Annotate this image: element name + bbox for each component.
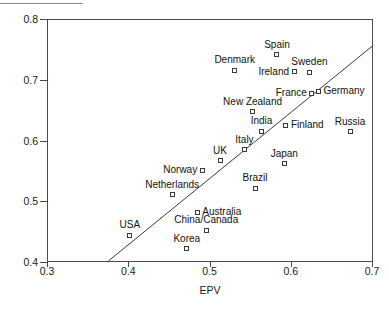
data-point-label: Korea (173, 234, 200, 244)
data-point-marker (259, 129, 264, 134)
data-point-marker (253, 186, 258, 191)
data-point-marker (184, 246, 189, 251)
x-tick-mark (47, 262, 48, 267)
data-point-label: Finland (291, 120, 324, 130)
data-point-label: Germany (323, 86, 364, 96)
y-tick-mark (40, 262, 47, 263)
data-point-marker (127, 233, 132, 238)
data-point-marker (309, 91, 314, 96)
data-point-marker (250, 109, 255, 114)
plot-frame (47, 19, 373, 262)
data-point-label: Norway (163, 165, 197, 175)
data-point-label: Sweden (291, 57, 327, 67)
x-tick-label: 0.7 (365, 266, 380, 277)
y-tick-mark (40, 201, 47, 202)
y-tick-mark (40, 80, 47, 81)
x-tick-mark (291, 262, 292, 267)
y-axis-label: VoU (0, 129, 1, 148)
data-point-marker (232, 68, 237, 73)
x-tick-mark (372, 262, 373, 267)
data-point-marker (170, 192, 175, 197)
data-point-label: Netherlands (145, 180, 199, 190)
data-point-label: China/Canada (174, 215, 238, 225)
data-point-marker (200, 168, 205, 173)
data-point-marker (348, 129, 353, 134)
header-divider-rule (0, 3, 83, 4)
data-point-label: New Zealand (223, 97, 282, 107)
x-tick-label: 0.6 (283, 266, 298, 277)
data-point-marker (307, 70, 312, 75)
data-point-marker (316, 89, 321, 94)
data-point-marker (242, 147, 247, 152)
data-point-marker (204, 228, 209, 233)
data-point-marker (274, 52, 279, 57)
data-point-label: Spain (264, 40, 290, 50)
x-axis-label: EPV (47, 285, 373, 296)
data-point-marker (292, 69, 297, 74)
data-point-label: India (251, 116, 273, 126)
data-point-marker (283, 123, 288, 128)
x-tick-mark (210, 262, 211, 267)
data-point-label: Russia (335, 117, 366, 127)
x-tick-label: 0.3 (40, 266, 55, 277)
data-point-marker (218, 158, 223, 163)
data-point-label: Brazil (242, 173, 267, 183)
scatter-plot-figure: VoU EPV 0.40.50.60.70.8 0.30.40.50.60.7 … (0, 0, 389, 313)
y-tick-label: 0.6 (23, 136, 38, 147)
x-tick-mark (128, 262, 129, 267)
data-point-label: Ireland (258, 67, 289, 77)
data-point-label: UK (213, 146, 227, 156)
data-point-marker (282, 161, 287, 166)
x-tick-label: 0.5 (202, 266, 217, 277)
data-point-label: USA (120, 220, 141, 230)
y-tick-label: 0.8 (23, 14, 38, 25)
x-tick-label: 0.4 (121, 266, 136, 277)
data-point-label: Italy (235, 135, 253, 145)
y-tick-mark (40, 141, 47, 142)
data-point-label: Denmark (214, 55, 255, 65)
y-tick-label: 0.4 (23, 257, 38, 268)
data-point-label: Japan (271, 149, 298, 159)
y-tick-label: 0.7 (23, 75, 38, 86)
y-tick-label: 0.5 (23, 196, 38, 207)
y-tick-mark (40, 19, 47, 20)
